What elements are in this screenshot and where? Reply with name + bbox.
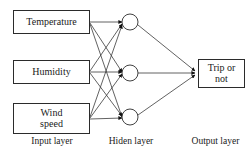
output-node-trip: Trip or not (198, 59, 245, 88)
edge-windspeed-h2 (90, 74, 122, 118)
caption-hidden-layer: Hiden layer (95, 136, 167, 146)
hidden-node-h1 (122, 14, 138, 30)
caption-output-layer: Output layer (182, 136, 249, 146)
neural-network-diagram: Temperature Humidity Wind speed Trip or … (0, 0, 249, 156)
caption-input-layer: Input layer (8, 136, 96, 146)
edge-h3-output (138, 75, 195, 115)
hidden-node-h3 (122, 109, 138, 125)
input-node-windspeed-label: Wind speed (38, 108, 65, 130)
edge-humidity-h3 (90, 73, 122, 116)
input-node-temperature: Temperature (13, 10, 90, 34)
input-node-humidity-label: Humidity (30, 67, 72, 78)
edge-h1-output (138, 25, 195, 71)
edge-windspeed-h3 (90, 118, 122, 119)
input-node-humidity: Humidity (13, 60, 90, 84)
output-node-trip-label: Trip or not (206, 63, 238, 85)
hidden-node-h2 (122, 65, 138, 81)
input-node-windspeed: Wind speed (13, 103, 90, 134)
input-node-temperature-label: Temperature (24, 17, 78, 28)
